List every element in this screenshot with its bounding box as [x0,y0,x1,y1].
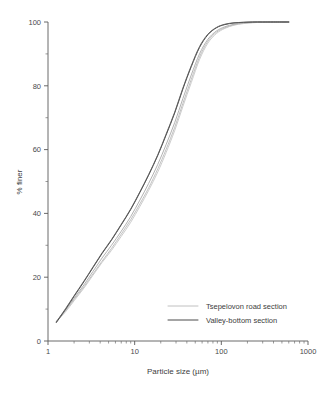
y-tick-label: 40 [33,209,41,218]
plot-background [0,0,335,395]
x-tick-label: 1000 [300,347,317,356]
y-tick-label: 20 [33,273,41,282]
x-tick-label: 1 [46,347,50,356]
x-tick-label: 10 [130,347,138,356]
legend-label-tsepelovon: Tsepelovon road section [206,302,287,311]
chart-figure: 1101001000 020406080100 Particle size (µ… [0,0,335,395]
y-axis-title: % finer [15,169,24,194]
y-tick-label: 60 [33,145,41,154]
y-tick-label: 100 [28,18,41,27]
x-axis-title: Particle size (µm) [147,367,209,376]
y-tick-label: 0 [37,337,41,346]
particle-size-distribution-chart: 1101001000 020406080100 Particle size (µ… [0,0,335,395]
y-tick-label: 80 [33,82,41,91]
legend-label-valley-bottom: Valley-bottom section [206,316,277,325]
x-tick-label: 100 [215,347,228,356]
